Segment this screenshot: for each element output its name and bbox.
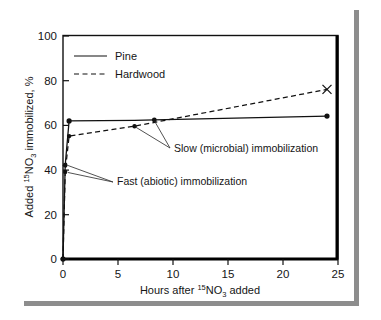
x-tick-label-25: 25 [332, 268, 345, 280]
y-tick-labels: 100 80 60 40 20 0 [38, 30, 57, 265]
annotation-fast-abiotic-label: Fast (abiotic) immobilization [117, 175, 247, 187]
y-tick-label-40: 40 [44, 164, 57, 176]
x-tick-label-20: 20 [277, 268, 290, 280]
annotation-slow-microbial-label: Slow (microbial) immobilization [174, 142, 318, 154]
y-axis-title-pre: Added [23, 183, 35, 218]
y-tick-label-60: 60 [44, 119, 57, 131]
x-tick-label-10: 10 [167, 268, 180, 280]
y-tick-label-20: 20 [44, 209, 57, 221]
x-tick-label-0: 0 [60, 268, 66, 280]
y-tick-label-0: 0 [51, 253, 57, 265]
y-axis-title-post: immobilized, % [23, 76, 35, 153]
x-axis-title-sup: 15 [197, 283, 205, 292]
svg-text:Added 15NO3 immobilized, %: Added 15NO3 immobilized, % [22, 76, 38, 217]
x-axis-title-pre: Hours after [140, 284, 197, 296]
x-axis-title-post: added [226, 284, 260, 296]
y-axis-title: Added 15NO3 immobilized, % [22, 76, 38, 217]
x-tick-label-5: 5 [115, 268, 121, 280]
chart-svg: 100 80 60 40 20 0 0 5 10 15 20 25 [0, 0, 381, 320]
x-axis-title: Hours after 15NO3 added [140, 283, 260, 299]
y-axis-title-mid: NO [23, 157, 35, 174]
y-tick-label-80: 80 [44, 75, 57, 87]
legend-label-hardwood: Hardwood [115, 68, 165, 80]
x-tick-label-15: 15 [222, 268, 235, 280]
legend-label-pine: Pine [115, 50, 137, 62]
y-tick-label-100: 100 [38, 30, 57, 42]
x-tick-labels: 0 5 10 15 20 25 [60, 268, 345, 280]
svg-text:Hours after 15NO3 added: Hours after 15NO3 added [140, 283, 260, 299]
x-axis-title-mid: NO [206, 284, 223, 296]
figure-root: 100 80 60 40 20 0 0 5 10 15 20 25 [0, 0, 381, 320]
y-axis-title-sup: 15 [22, 174, 31, 182]
